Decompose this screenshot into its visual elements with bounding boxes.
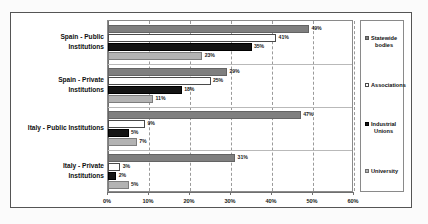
legend-item-3[interactable]: University [365, 168, 401, 175]
bar-value-label: 29% [229, 67, 239, 76]
bar-industrial-unions[interactable] [108, 43, 252, 51]
category-label-line: Spain - Public [60, 32, 104, 42]
x-tick [107, 192, 108, 195]
bar-associations[interactable] [108, 77, 211, 85]
bar-associations[interactable] [108, 34, 276, 42]
x-tick [271, 192, 272, 195]
legend-item-0[interactable]: Statewidebodies [365, 35, 401, 49]
x-tick [230, 192, 231, 195]
bar-row: 2% [108, 172, 352, 180]
category-label-1: Spain - PrivateInstitutions [58, 75, 104, 94]
group-separator [108, 150, 352, 151]
bar-row: 11% [108, 95, 352, 103]
chart-screenshot: 49%41%35%23%29%25%18%11%47%9%5%7%31%3%2%… [0, 0, 428, 224]
category-label-line: Italy - Private [63, 161, 104, 171]
bar-row: 3% [108, 163, 352, 171]
x-tick [353, 192, 354, 195]
bar-row: 5% [108, 181, 352, 189]
bar-value-label: 3% [123, 162, 130, 171]
legend-swatch-icon [365, 169, 369, 173]
x-tick [189, 192, 190, 195]
bar-value-label: 9% [147, 119, 154, 128]
x-tick-label: 30% [224, 197, 235, 205]
group-separator [108, 64, 352, 65]
x-tick [148, 192, 149, 195]
bar-value-label: 25% [213, 76, 223, 85]
bar-value-label: 31% [238, 153, 248, 162]
bar-row: 23% [108, 52, 352, 60]
x-tick-label: 40% [265, 197, 276, 205]
bar-row: 29% [108, 68, 352, 76]
legend-item-2[interactable]: IndustrialUnions [365, 121, 401, 135]
bar-value-label: 35% [254, 42, 264, 51]
x-axis [107, 192, 353, 193]
bar-industrial-unions[interactable] [108, 129, 129, 137]
bar-row: 9% [108, 120, 352, 128]
legend-label: University [371, 168, 398, 175]
legend-swatch-icon [365, 83, 369, 87]
bar-value-label: 5% [131, 128, 138, 137]
chart-legend: StatewidebodiesAssociationsIndustrialUni… [360, 20, 404, 192]
category-label-line: Institutions [60, 42, 104, 52]
bar-row: 41% [108, 34, 352, 42]
bar-row: 31% [108, 154, 352, 162]
bar-row: 47% [108, 111, 352, 119]
bar-university[interactable] [108, 95, 153, 103]
x-tick-label: 10% [142, 197, 153, 205]
bar-university[interactable] [108, 138, 137, 146]
bar-value-label: 2% [119, 171, 126, 180]
bar-university[interactable] [108, 181, 129, 189]
bar-statewide-bodies[interactable] [108, 25, 309, 33]
bar-row: 5% [108, 129, 352, 137]
bar-value-label: 47% [303, 110, 313, 119]
category-label-line: Spain - Private [58, 75, 104, 85]
x-tick-label: 20% [183, 197, 194, 205]
bar-row: 7% [108, 138, 352, 146]
legend-label: Associations [371, 82, 406, 89]
bar-value-label: 7% [139, 137, 146, 146]
category-label-0: Spain - PublicInstitutions [60, 32, 104, 51]
bar-row: 25% [108, 77, 352, 85]
bar-value-label: 23% [205, 51, 215, 60]
bar-university[interactable] [108, 52, 202, 60]
category-label-2: Italy - Public Institutions [28, 123, 104, 133]
bar-industrial-unions[interactable] [108, 172, 116, 180]
bar-row: 18% [108, 86, 352, 94]
category-label-line: Institutions [58, 85, 104, 95]
bar-statewide-bodies[interactable] [108, 154, 235, 162]
bar-value-label: 41% [279, 33, 289, 42]
category-label-line: Italy - Public Institutions [28, 123, 104, 133]
bar-row: 49% [108, 25, 352, 33]
bar-value-label: 11% [156, 94, 166, 103]
bar-value-label: 18% [184, 85, 194, 94]
bar-industrial-unions[interactable] [108, 86, 182, 94]
x-tick [312, 192, 313, 195]
category-label-3: Italy - PrivateInstitutions [63, 161, 104, 180]
x-tick-label: 50% [306, 197, 317, 205]
bar-associations[interactable] [108, 120, 145, 128]
bar-associations[interactable] [108, 163, 120, 171]
category-label-line: Institutions [63, 171, 104, 181]
group-separator [108, 107, 352, 108]
bar-statewide-bodies[interactable] [108, 111, 301, 119]
gridline-60 [354, 21, 355, 191]
bar-row: 35% [108, 43, 352, 51]
x-tick-label: 0% [103, 197, 111, 205]
bar-value-label: 49% [311, 24, 321, 33]
legend-label: Statewidebodies [371, 35, 397, 49]
legend-swatch-icon [365, 122, 369, 126]
legend-item-1[interactable]: Associations [365, 82, 401, 89]
legend-label: IndustrialUnions [371, 121, 396, 135]
bar-statewide-bodies[interactable] [108, 68, 227, 76]
legend-swatch-icon [365, 36, 369, 40]
bar-value-label: 5% [131, 180, 138, 189]
plot-area: 49%41%35%23%29%25%18%11%47%9%5%7%31%3%2%… [107, 20, 353, 192]
x-tick-label: 60% [347, 197, 358, 205]
